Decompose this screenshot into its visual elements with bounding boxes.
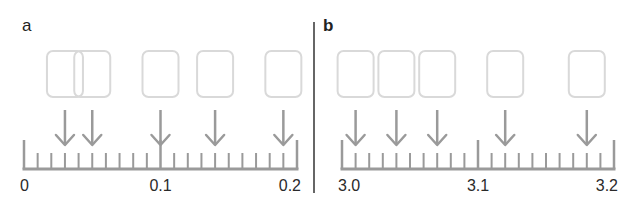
panel-b: 3.03.13.2 [338, 51, 618, 194]
box [569, 51, 605, 97]
panel-a: 00.10.2 [20, 51, 301, 194]
box [419, 51, 455, 97]
box [378, 51, 414, 97]
box [338, 51, 374, 97]
box [197, 51, 233, 97]
tick-label: 0.2 [279, 177, 301, 194]
tick-label: 3.1 [467, 177, 489, 194]
box [74, 51, 110, 97]
box [487, 51, 523, 97]
tick-label: 3.0 [338, 177, 360, 194]
box [265, 51, 301, 97]
box [143, 51, 179, 97]
tick-label: 0 [20, 177, 29, 194]
diagram-canvas: 00.10.2 3.03.13.2 [0, 0, 640, 207]
tick-label: 3.2 [596, 177, 618, 194]
tick-label: 0.1 [149, 177, 171, 194]
box [47, 51, 83, 97]
